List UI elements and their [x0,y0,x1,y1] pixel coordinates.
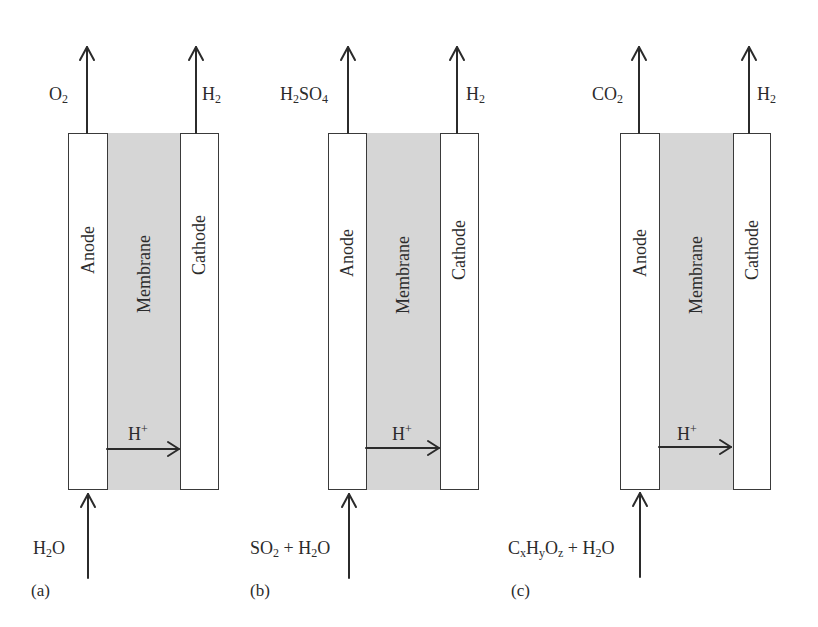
cathode-label-c: Cathode [742,220,763,280]
panel-label-c: (c) [511,581,530,601]
cathode-label-b: Cathode [449,220,470,280]
anode-label-a: Anode [78,226,99,274]
proton-label-b: H+ [392,422,412,445]
anode-input-arrow-b [342,494,356,578]
anode-label-c: Anode [630,229,651,277]
anode-input-b: SO2 + H2O [250,538,330,561]
anode-output-arrow-a [80,47,94,133]
cathode-output-b: H2 [466,84,485,107]
anode-output-a: O2 [49,84,68,107]
proton-label-c: H+ [677,422,697,445]
panel-label-a: (a) [31,581,50,601]
membrane-label-c: Membrane [686,236,707,314]
anode-label-b: Anode [337,229,358,277]
electrolysis-figure: Anode Membrane Cathode O2 H2 H+ H2O (a) … [0,0,818,627]
cathode-label-a: Cathode [189,215,210,275]
membrane-label-b: Membrane [393,236,414,314]
anode-output-b: H2SO4 [280,84,328,107]
membrane-label-a: Membrane [134,235,155,313]
anode-output-c: CO2 [592,84,623,107]
cathode-output-a: H2 [202,84,221,107]
proton-label-a: H+ [128,422,148,445]
anode-input-c: CxHyOz + H2O [508,538,615,561]
anode-output-arrow-c [632,47,646,133]
cathode-output-c: H2 [757,84,776,107]
anode-input-arrow-c [633,493,647,577]
anode-input-arrow-a [81,494,95,578]
cathode-output-arrow-c [742,47,756,133]
panel-label-b: (b) [250,581,270,601]
cathode-output-arrow-a [189,47,203,133]
anode-input-a: H2O [33,538,65,561]
cathode-output-arrow-b [450,47,464,133]
anode-output-arrow-b [341,47,355,133]
